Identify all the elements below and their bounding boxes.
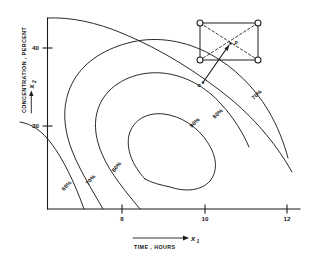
- inset-node-bottom-right: [255, 57, 261, 63]
- contour-90-ellipse: [128, 114, 215, 190]
- contour-60-left-arc: [20, 122, 84, 209]
- contour-label-90-right: 90%: [188, 116, 200, 128]
- contour-label-group: 60% 70% 80% 90% 80% 70%: [60, 88, 262, 191]
- inset-factorial-design: p o: [197, 20, 261, 88]
- x-axis-title: TIME , HOURS: [134, 244, 176, 250]
- y-axis-arrowhead: [29, 90, 33, 96]
- x-axis-title-group: x 1 TIME , HOURS: [133, 234, 200, 250]
- inset-node-top-left: [197, 20, 203, 26]
- y-tick-label-40: 40: [32, 44, 39, 51]
- contour-90: [128, 114, 215, 190]
- contour-70-path: [65, 39, 288, 209]
- contour-label-80-left: 80%: [111, 160, 123, 173]
- y-axis-variable-group: x 2: [27, 80, 37, 113]
- inset-label-p: p: [233, 39, 237, 45]
- y-axis-title-group: CONCENTRATION , PERCENT x 2: [21, 27, 37, 113]
- contour-80: [95, 73, 249, 209]
- inset-node-top-right: [255, 20, 261, 26]
- x-tick-label-8: 8: [120, 215, 124, 222]
- contour-label-80-right: 80%: [211, 107, 223, 119]
- contour-label-70-left: 70%: [84, 173, 96, 186]
- x-axis-variable-subscript: 1: [197, 238, 200, 244]
- contour-80-path: [95, 73, 249, 209]
- x-axis-arrowhead: [183, 236, 189, 241]
- y-axis-variable-subscript: 2: [31, 80, 37, 84]
- y-axis-variable: x: [27, 84, 36, 90]
- contour-plot-figure: 40 30 8 10 12: [0, 0, 321, 259]
- inset-label-o: o: [197, 82, 200, 88]
- contour-label-60-left: 60%: [60, 179, 72, 192]
- plot-canvas: 40 30 8 10 12: [0, 0, 321, 259]
- inset-point-p-dot: [229, 42, 232, 45]
- contour-70: [65, 39, 288, 209]
- x-tick-group: 8 10 12: [120, 205, 291, 223]
- y-axis-title: CONCENTRATION , PERCENT: [21, 27, 27, 113]
- inset-point-o-dot: [202, 81, 205, 84]
- inset-node-bottom-left: [197, 57, 203, 63]
- x-axis-variable: x: [190, 234, 196, 243]
- x-tick-label-10: 10: [202, 215, 209, 222]
- x-tick-label-12: 12: [284, 215, 291, 222]
